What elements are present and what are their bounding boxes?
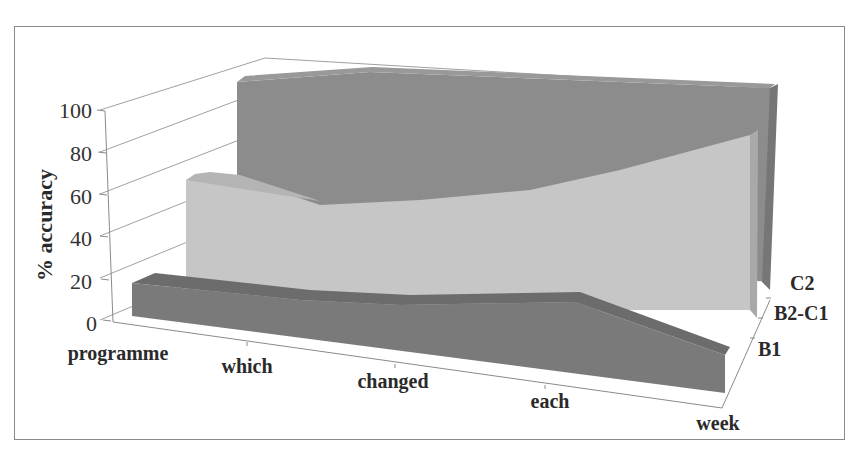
depth-label-b1: B1 xyxy=(758,338,781,360)
y-tick-0: 0 xyxy=(86,311,97,336)
depth-label-c2: C2 xyxy=(790,272,814,294)
y-tick-labels: 100 80 60 40 20 0 xyxy=(59,98,97,336)
x-label-programme: programme xyxy=(68,342,169,365)
y-axis-title: % accuracy xyxy=(32,169,57,281)
depth-label-b2c1: B2-C1 xyxy=(774,302,828,324)
y-tick-60: 60 xyxy=(70,184,92,209)
y-tick-100: 100 xyxy=(59,98,92,123)
y-axis xyxy=(97,110,113,322)
x-label-week: week xyxy=(696,412,740,434)
x-label-each: each xyxy=(531,390,570,412)
y-tick-40: 40 xyxy=(70,226,92,251)
x-label-changed: changed xyxy=(357,370,428,393)
y-tick-20: 20 xyxy=(70,269,92,294)
y-tick-80: 80 xyxy=(70,141,92,166)
x-label-which: which xyxy=(221,355,272,377)
chart-canvas: 100 80 60 40 20 0 % accuracy programme xyxy=(0,0,864,473)
